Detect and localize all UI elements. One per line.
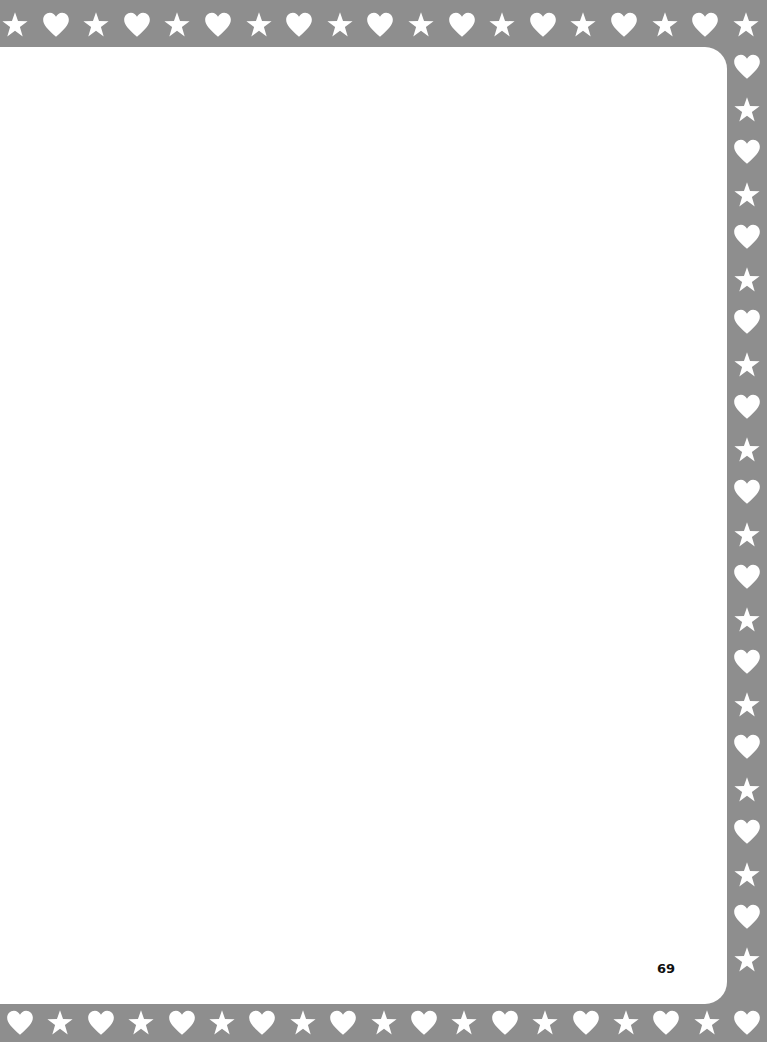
- heart-icon: [285, 11, 313, 39]
- star-icon: [733, 606, 761, 634]
- heart-icon: [733, 308, 761, 336]
- star-icon: [245, 11, 273, 39]
- star-icon: [733, 521, 761, 549]
- star-icon: [46, 1009, 74, 1037]
- star-icon: [569, 11, 597, 39]
- heart-icon: [572, 1009, 600, 1037]
- star-icon: [733, 776, 761, 804]
- heart-icon: [366, 11, 394, 39]
- heart-icon: [248, 1009, 276, 1037]
- star-icon: [370, 1009, 398, 1037]
- star-icon: [163, 11, 191, 39]
- heart-icon: [42, 11, 70, 39]
- heart-icon: [733, 818, 761, 846]
- star-icon: [326, 11, 354, 39]
- star-icon: [531, 1009, 559, 1037]
- star-icon: [127, 1009, 155, 1037]
- heart-icon: [733, 563, 761, 591]
- heart-icon: [410, 1009, 438, 1037]
- blank-page: [0, 47, 727, 1004]
- heart-icon: [733, 53, 761, 81]
- heart-icon: [733, 138, 761, 166]
- heart-icon: [448, 11, 476, 39]
- heart-icon: [87, 1009, 115, 1037]
- star-icon: [289, 1009, 317, 1037]
- star-icon: [733, 946, 761, 974]
- star-icon: [1, 11, 29, 39]
- star-icon: [82, 11, 110, 39]
- star-icon: [612, 1009, 640, 1037]
- heart-icon: [733, 1009, 761, 1037]
- star-icon: [733, 436, 761, 464]
- star-icon: [733, 266, 761, 294]
- star-icon: [693, 1009, 721, 1037]
- heart-icon: [168, 1009, 196, 1037]
- star-icon: [732, 11, 760, 39]
- heart-icon: [691, 11, 719, 39]
- heart-icon: [6, 1009, 34, 1037]
- heart-icon: [733, 223, 761, 251]
- star-icon: [733, 181, 761, 209]
- heart-icon: [529, 11, 557, 39]
- star-icon: [651, 11, 679, 39]
- star-icon: [733, 351, 761, 379]
- star-icon: [488, 11, 516, 39]
- heart-icon: [652, 1009, 680, 1037]
- heart-icon: [329, 1009, 357, 1037]
- star-icon: [733, 96, 761, 124]
- heart-icon: [733, 393, 761, 421]
- heart-icon: [733, 648, 761, 676]
- page-number: 69: [657, 961, 675, 976]
- star-icon: [733, 691, 761, 719]
- heart-icon: [610, 11, 638, 39]
- heart-icon: [733, 478, 761, 506]
- heart-icon: [733, 903, 761, 931]
- heart-icon: [491, 1009, 519, 1037]
- heart-icon: [204, 11, 232, 39]
- star-icon: [208, 1009, 236, 1037]
- star-icon: [450, 1009, 478, 1037]
- heart-icon: [733, 733, 761, 761]
- heart-icon: [123, 11, 151, 39]
- star-icon: [407, 11, 435, 39]
- star-icon: [733, 861, 761, 889]
